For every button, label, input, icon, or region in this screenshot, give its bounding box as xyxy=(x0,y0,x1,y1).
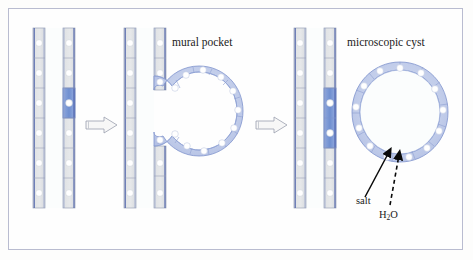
panel-cyst xyxy=(294,28,448,208)
figure-canvas: mural pocket microscopic cyst salt H2O xyxy=(0,0,473,260)
label-salt: salt xyxy=(356,195,371,206)
panel-normal xyxy=(33,28,75,208)
arrow-pocket-to-cyst xyxy=(256,117,287,133)
wall-left-normal xyxy=(33,28,45,208)
panel-pocket xyxy=(124,28,243,208)
diagram-stage: mural pocket microscopic cyst salt H2O xyxy=(0,0,473,260)
wall-left-cyst xyxy=(294,28,306,208)
wall-left-pocket xyxy=(124,28,136,208)
mural-pocket-ring xyxy=(154,66,243,156)
arrow-normal-to-pocket xyxy=(86,117,117,133)
label-water: H2O xyxy=(379,209,398,222)
tubule-lumen xyxy=(45,28,63,208)
wall-right-normal xyxy=(63,28,75,208)
label-microscopic-cyst: microscopic cyst xyxy=(347,36,425,48)
water-o: O xyxy=(390,209,398,220)
tubule-lumen-cyst xyxy=(306,28,324,208)
water-h: H xyxy=(379,209,387,220)
wall-right-cyst xyxy=(324,28,336,208)
salt-arrow xyxy=(365,152,389,197)
microscopic-cyst-ring xyxy=(352,62,448,162)
label-mural-pocket: mural pocket xyxy=(172,36,232,48)
wall-right-pocket xyxy=(154,28,166,208)
cyst-lumen xyxy=(360,70,440,154)
tubule-lumen-pocket xyxy=(136,28,154,208)
water-arrow xyxy=(390,155,399,205)
